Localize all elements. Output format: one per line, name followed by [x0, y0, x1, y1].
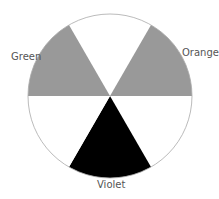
label-orange: Orange: [182, 47, 219, 58]
label-violet: Violet: [97, 179, 125, 190]
label-green: Green: [11, 51, 41, 62]
color-wheel-diagram: Green Orange Violet: [0, 0, 219, 199]
